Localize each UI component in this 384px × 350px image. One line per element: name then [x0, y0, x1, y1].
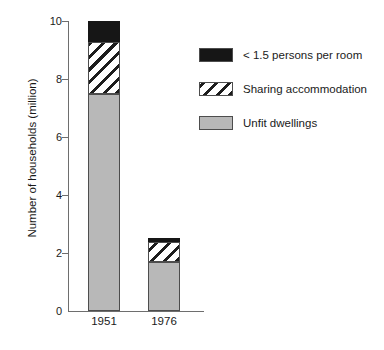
bar-1976 [148, 238, 180, 311]
x-tick-label-1976: 1976 [134, 316, 194, 328]
bar-1951-segment-persons-per-room [88, 21, 120, 42]
y-tick-8 [62, 79, 68, 80]
x-tick-label-1951: 1951 [74, 316, 134, 328]
bar-1951 [88, 21, 120, 311]
x-axis-line [68, 311, 204, 312]
chart-figure: 10 8 6 4 2 0 Number of households (milli… [0, 0, 384, 350]
y-tick-6 [62, 137, 68, 138]
y-tick-10 [62, 21, 68, 22]
y-tick-2 [62, 253, 68, 254]
legend-label-persons-per-room: < 1.5 persons per room [243, 49, 362, 61]
bar-1976-segment-unfit-dwellings [148, 262, 180, 311]
legend-label-unfit-dwellings: Unfit dwellings [243, 117, 317, 129]
bar-1951-segment-sharing-accommodation [88, 42, 120, 94]
bar-1976-segment-sharing-accommodation [148, 242, 180, 262]
legend-swatch-diagonal-hatch-icon [199, 82, 233, 96]
legend-label-sharing-accommodation: Sharing accommodation [243, 83, 367, 95]
legend-swatch-solid-black-icon [199, 48, 233, 62]
y-tick-4 [62, 195, 68, 196]
y-axis-line [68, 21, 69, 312]
bar-1951-segment-unfit-dwellings [88, 94, 120, 311]
y-tick-label-10: 10 [2, 16, 62, 27]
y-tick-label-0: 0 [2, 306, 62, 317]
legend-swatch-solid-gray-icon [199, 116, 233, 130]
y-axis-title: Number of households (million) [26, 63, 38, 253]
